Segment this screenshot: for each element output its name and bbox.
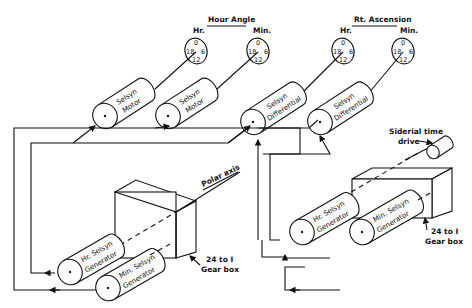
dial-ra-min: 0 6 12 18 xyxy=(389,36,417,67)
left-gearbox xyxy=(115,180,196,258)
ha-hr-label: Hr. xyxy=(193,26,205,35)
dial-ha-hr: 0 6 12 18 xyxy=(182,36,210,67)
svg-text:0: 0 xyxy=(256,39,260,47)
header-hour-angle: Hour Angle Hr. Min. xyxy=(193,15,271,35)
svg-text:24 to I: 24 to I xyxy=(431,227,458,236)
rt-ascension-label: Rt. Ascension xyxy=(354,15,412,24)
svg-text:6: 6 xyxy=(349,48,353,56)
ra-min-label: Min. xyxy=(400,26,418,35)
svg-text:12: 12 xyxy=(254,56,262,64)
polar-axis-label: Polar axis xyxy=(200,162,242,189)
selsyn-diagram: Hour Angle Hr. Min. Rt. Ascension Hr. Mi… xyxy=(0,0,472,308)
header-rt-ascension: Rt. Ascension Hr. Min. xyxy=(340,15,418,35)
svg-text:drive: drive xyxy=(398,137,420,146)
ha-min-label: Min. xyxy=(253,26,271,35)
selsyn-motor-ha-hr: Selsyn Motor xyxy=(88,75,159,134)
left-gearbox-label: 24 to I Gear box xyxy=(190,255,239,274)
siderial-drive-label: Siderial time xyxy=(389,127,443,136)
svg-text:Gear box: Gear box xyxy=(425,237,463,246)
right-gearbox-label: 24 to I Gear box xyxy=(425,218,463,246)
svg-text:0: 0 xyxy=(194,39,198,47)
svg-text:6: 6 xyxy=(409,48,413,56)
ra-hr-label: Hr. xyxy=(340,26,352,35)
svg-text:12: 12 xyxy=(192,56,200,64)
svg-text:24 to I: 24 to I xyxy=(206,255,233,264)
selsyn-differential-ra-min: Selsyn Differential xyxy=(303,78,378,139)
svg-text:12: 12 xyxy=(339,56,347,64)
svg-text:Gear box: Gear box xyxy=(201,265,239,274)
dial-ha-min: 0 6 12 18 xyxy=(244,36,272,67)
hour-angle-label: Hour Angle xyxy=(208,15,255,24)
svg-text:6: 6 xyxy=(264,48,268,56)
svg-text:12: 12 xyxy=(399,56,407,64)
svg-text:6: 6 xyxy=(201,48,205,56)
right-hr-generator: Hr. Selsyn Generator xyxy=(285,189,363,249)
svg-text:0: 0 xyxy=(341,39,345,47)
selsyn-differential-ra-hr: Selsyn Differential xyxy=(236,78,311,139)
svg-text:0: 0 xyxy=(401,39,405,47)
